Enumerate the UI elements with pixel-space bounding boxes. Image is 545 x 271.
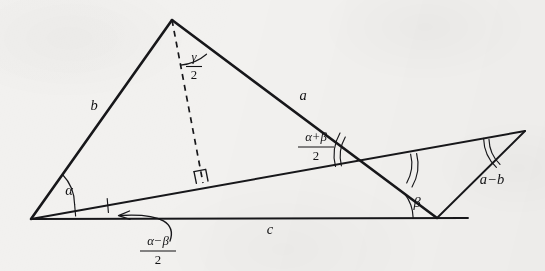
- side-c-base-line: [31, 218, 468, 219]
- intersection-arc-left-outer: [334, 133, 340, 167]
- intersection-arc-left-inner: [340, 137, 345, 166]
- geometry-figure: b a c a−b α β γ 2 α+β 2 α−β 2: [0, 0, 545, 271]
- angle-alpha-label: α: [65, 182, 73, 198]
- alpha-plus-beta-denominator: 2: [313, 149, 319, 163]
- gamma-numerator: γ: [191, 50, 197, 64]
- alpha-minus-beta-tick-2: [107, 199, 108, 213]
- alpha-minus-beta-denominator: 2: [155, 253, 161, 267]
- triangle-diagram-svg: b a c a−b α β γ 2 α+β 2 α−β 2: [0, 0, 545, 271]
- side-a-label: a: [299, 87, 306, 103]
- gamma-denominator: 2: [191, 68, 197, 82]
- side-a-minus-b-label: a−b: [480, 171, 504, 187]
- side-a-line: [172, 20, 437, 218]
- alpha-plus-beta-over-two-fraction: α+β 2: [298, 130, 334, 163]
- alpha-minus-beta-tick-1: [75, 204, 76, 216]
- right-angle-square-tick: [194, 172, 196, 184]
- alpha-minus-beta-numerator: α−β: [147, 234, 169, 248]
- intersection-arc-right-outer: [412, 154, 418, 188]
- altitude-dashed-line: [172, 20, 203, 183]
- side-b-line: [31, 20, 172, 219]
- gamma-over-two-fraction: γ 2: [186, 50, 202, 82]
- angle-beta-label: β: [412, 194, 421, 210]
- far-right-tip-arc-outer: [484, 138, 497, 167]
- side-b-label: b: [90, 97, 97, 113]
- auxiliary-long-line: [31, 131, 525, 219]
- intersection-arc-right-inner: [407, 154, 412, 183]
- side-c-label: c: [267, 221, 274, 237]
- alpha-plus-beta-numerator: α+β: [305, 130, 327, 144]
